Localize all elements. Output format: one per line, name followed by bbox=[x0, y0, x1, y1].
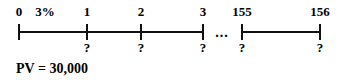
cash-flow-marker-156: ? bbox=[317, 41, 324, 54]
cash-flow-marker-3: ? bbox=[200, 41, 207, 54]
tick-period-0 bbox=[18, 24, 20, 40]
period-label-156: 156 bbox=[310, 5, 330, 18]
axis-line-right-segment bbox=[242, 31, 320, 33]
tick-period-155 bbox=[241, 24, 243, 40]
period-label-2: 2 bbox=[138, 5, 145, 18]
period-label-3: 3 bbox=[200, 5, 207, 18]
tick-period-1 bbox=[86, 24, 88, 40]
period-label-0: 0 bbox=[16, 5, 23, 18]
timeline-diagram: 0 1 2 3 155 156 3% ? ? ? ? ? ... PV = 30… bbox=[0, 0, 343, 80]
axis-line-left-segment bbox=[19, 31, 203, 33]
timeline-break-ellipsis: ... bbox=[215, 26, 229, 40]
tick-period-156 bbox=[319, 24, 321, 40]
cash-flow-marker-1: ? bbox=[84, 41, 91, 54]
present-value-caption: PV = 30,000 bbox=[16, 62, 88, 76]
tick-period-2 bbox=[140, 24, 142, 40]
period-label-1: 1 bbox=[84, 5, 91, 18]
interest-rate-label: 3% bbox=[35, 5, 55, 18]
cash-flow-marker-2: ? bbox=[138, 41, 145, 54]
tick-period-3 bbox=[202, 24, 204, 40]
cash-flow-marker-155: ? bbox=[239, 41, 246, 54]
period-label-155: 155 bbox=[232, 5, 252, 18]
